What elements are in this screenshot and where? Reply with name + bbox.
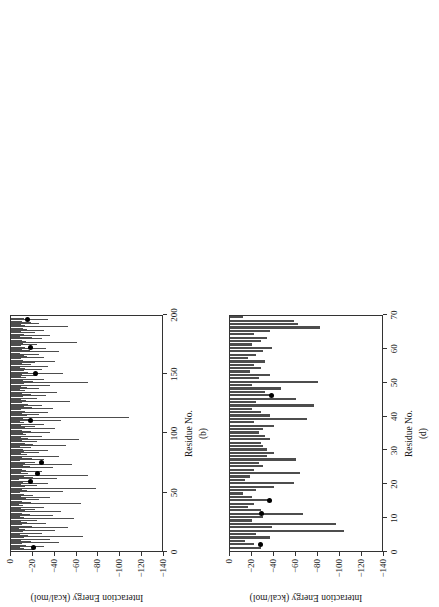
figure-root: 0501001502000−20−40−60−80−100−120−140Res… bbox=[0, 0, 439, 607]
panel-cell-c: 010203040500−20−40−60−80−100−120−140Resi… bbox=[219, 303, 439, 607]
panel-cell-b: 0501001502000−20−40−60−80−100−120−140Res… bbox=[0, 0, 219, 303]
panel-cell-a: 0204060801001201401601800−20−40−60−80−10… bbox=[0, 303, 219, 607]
panel-cell-d: 0102030405060700−20−40−60−80−100−120−140… bbox=[219, 0, 439, 303]
